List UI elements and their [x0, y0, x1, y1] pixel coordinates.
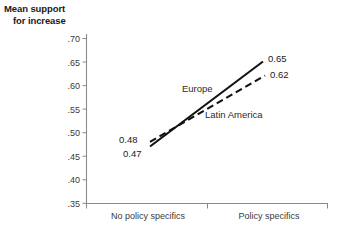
- chart-figure: Mean support for increase .70 .65 .60 .5…: [0, 0, 337, 226]
- y-tick-label: .45: [67, 152, 80, 162]
- x-axis-tick-labels: No policy specifics Policy specifics: [111, 211, 300, 221]
- y-tick-label: .70: [67, 34, 80, 44]
- series-line-europe: [150, 62, 263, 147]
- value-label-europe-start: 0.47: [123, 148, 142, 159]
- y-axis-ticks: [83, 39, 87, 204]
- x-tick-label-no-policy-specifics: No policy specifics: [111, 211, 186, 221]
- y-tick-label: .40: [67, 175, 80, 185]
- y-tick-label: .65: [67, 58, 80, 68]
- x-axis-ticks: [87, 204, 328, 209]
- y-axis-tick-labels: .70 .65 .60 .55 .50 .45 .40 .35: [67, 34, 80, 209]
- series-annotation-latin-america: Latin America: [205, 109, 263, 120]
- y-tick-label: .35: [67, 199, 80, 209]
- value-label-europe-end: 0.65: [268, 53, 287, 64]
- value-label-latin-america-end: 0.62: [270, 69, 289, 80]
- y-tick-label: .55: [67, 105, 80, 115]
- y-tick-label: .50: [67, 128, 80, 138]
- value-label-latin-america-start: 0.48: [119, 134, 138, 145]
- plot-area: .70 .65 .60 .55 .50 .45 .40 .35 No polic…: [0, 0, 337, 226]
- x-tick-label-policy-specifics: Policy specifics: [238, 211, 300, 221]
- series-annotation-europe: Europe: [182, 83, 213, 94]
- y-tick-label: .60: [67, 81, 80, 91]
